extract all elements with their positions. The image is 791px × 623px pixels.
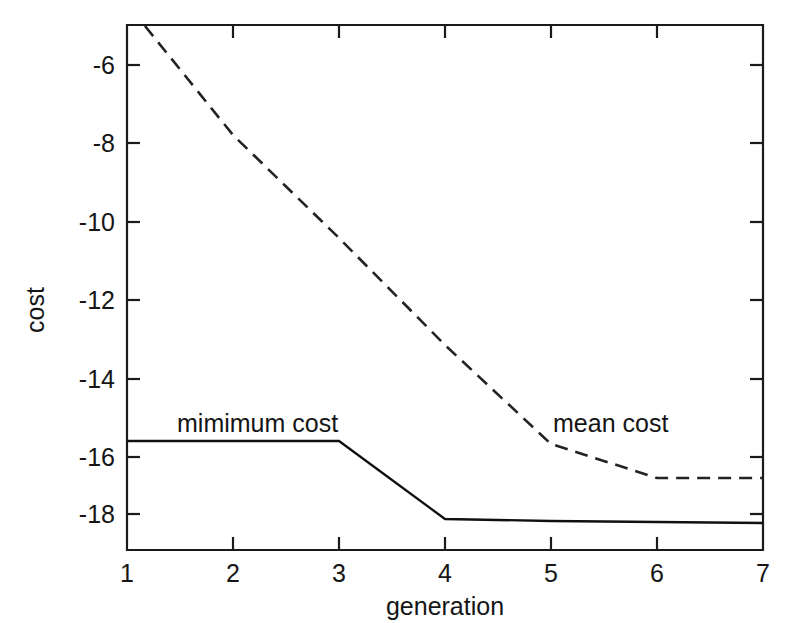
- y-tick-label: -14: [79, 365, 115, 393]
- x-tick-label: 2: [226, 559, 240, 587]
- line-chart: -6 -8 -10 -12 -14 -16 -18 1 2 3 4 5 6 7 …: [0, 0, 791, 623]
- y-tick-labels: -6 -8 -10 -12 -14 -16 -18: [79, 51, 115, 528]
- x-tick-label: 6: [650, 559, 664, 587]
- y-tick-label: -18: [79, 500, 115, 528]
- x-tick-label: 5: [544, 559, 558, 587]
- series-label-mean-cost: mean cost: [553, 409, 668, 437]
- x-tick-label: 7: [756, 559, 770, 587]
- x-tick-labels: 1 2 3 4 5 6 7: [120, 559, 770, 587]
- y-axis-title: cost: [21, 287, 49, 333]
- y-tick-label: -16: [79, 443, 115, 471]
- y-tick-label: -10: [79, 208, 115, 236]
- y-tick-label: -8: [93, 129, 115, 157]
- y-tick-label: -6: [93, 51, 115, 79]
- plot-area-background: [127, 25, 763, 550]
- x-tick-label: 4: [438, 559, 452, 587]
- y-tick-label: -12: [79, 286, 115, 314]
- series-label-mimimum-cost: mimimum cost: [177, 409, 338, 437]
- x-axis-title: generation: [386, 592, 504, 620]
- x-tick-label: 1: [120, 559, 134, 587]
- chart-figure: -6 -8 -10 -12 -14 -16 -18 1 2 3 4 5 6 7 …: [0, 0, 791, 623]
- x-tick-label: 3: [332, 559, 346, 587]
